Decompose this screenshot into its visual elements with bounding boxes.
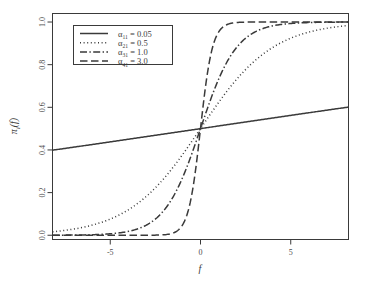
sigmoid-line-chart: 0.00.20.40.60.81.0 -505 πi(f) f α11 = 0.… xyxy=(0,0,369,284)
legend-label-4: α41 = 3.0 xyxy=(118,56,148,67)
y-tick-label: 0.4 xyxy=(38,145,47,155)
y-tick-label: 0.2 xyxy=(38,188,47,198)
svg-text:πi(f): πi(f) xyxy=(8,117,21,134)
x-tick-label: -5 xyxy=(107,248,114,257)
chart-background xyxy=(0,0,369,284)
y-tick-label: 1.0 xyxy=(38,17,47,27)
y-axis-title-arg: (f) xyxy=(8,117,20,127)
y-tick-label: 0.6 xyxy=(38,102,47,112)
chart-figure: 0.00.20.40.60.81.0 -505 πi(f) f α11 = 0.… xyxy=(0,0,369,284)
y-axis-title: πi(f) xyxy=(8,117,21,134)
y-tick-label: 0.0 xyxy=(38,230,47,240)
x-tick-label: 5 xyxy=(289,248,293,257)
legend-value-4: 3.0 xyxy=(137,56,148,66)
y-tick-label: 0.8 xyxy=(38,60,47,70)
chart-legend: α11 = 0.05α21 = 0.5α31 = 1.0α41 = 3.0 xyxy=(74,26,173,68)
legend-equals-4: = xyxy=(128,56,137,66)
x-tick-label: 0 xyxy=(199,248,203,257)
